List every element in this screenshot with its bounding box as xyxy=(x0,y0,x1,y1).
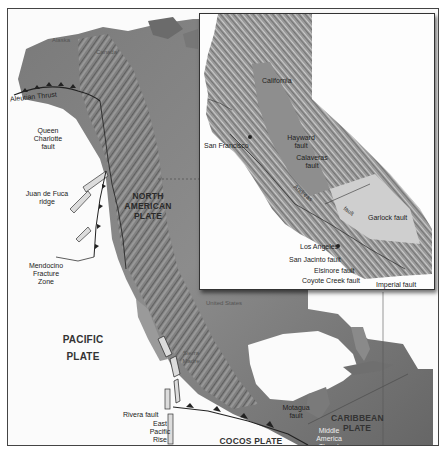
label-garlock-fault: Garlock fault xyxy=(368,214,407,222)
label-line: fault xyxy=(26,143,70,151)
label-motagua-fault: Motagua fault xyxy=(281,404,311,420)
label-line: NORTH xyxy=(118,191,178,201)
label-line: Charlotte xyxy=(26,135,70,143)
label-line: AMERICAN xyxy=(118,201,178,211)
label-line: Fracture xyxy=(24,270,68,278)
label-calaveras-fault: Calaveras fault xyxy=(294,154,330,170)
label-coyote-creek-fault: Coyote Creek fault xyxy=(302,277,360,285)
label-hayward-fault: Hayward fault xyxy=(285,134,317,150)
label-sierra-madre: Sierra Madre xyxy=(176,349,206,365)
california-inset-map: California San Francisco Hayward fault C… xyxy=(199,13,435,290)
label-united-states: United States xyxy=(206,299,242,307)
label-line: fault xyxy=(285,142,317,150)
label-line: PLATE xyxy=(118,211,178,221)
label-line: fault xyxy=(294,162,330,170)
label-line: Zone xyxy=(24,278,68,286)
label-line: Middle xyxy=(314,427,344,435)
label-california: California xyxy=(262,77,292,85)
label-line: Motagua xyxy=(281,404,311,412)
label-queen-charlotte-fault: Queen Charlotte fault xyxy=(26,127,70,151)
label-line: Mendocino xyxy=(24,262,68,270)
label-line: America xyxy=(314,435,344,443)
label-east-pacific-rise: East Pacific Rise xyxy=(148,420,172,444)
label-line: Queen xyxy=(26,127,70,135)
label-alaska: Alaska xyxy=(52,36,70,44)
label-line: PLATE xyxy=(58,348,108,365)
label-line: Sierra xyxy=(176,349,206,357)
label-line: fault xyxy=(281,412,311,420)
label-line: PACIFIC xyxy=(58,331,108,348)
label-line: Juan de Fuca xyxy=(20,190,74,198)
label-line: ridge xyxy=(20,198,74,206)
label-pacific-plate: PACIFIC PLATE xyxy=(58,331,108,365)
label-rivera-fault: Rivera fault xyxy=(123,411,158,419)
label-juan-de-fuca-ridge: Juan de Fuca ridge xyxy=(20,190,74,206)
label-canada: Canada xyxy=(96,48,117,56)
label-elsinore-fault: Elsinore fault xyxy=(314,267,354,275)
label-line: East xyxy=(148,420,172,428)
label-line: Hayward xyxy=(285,134,317,142)
label-line: CARIBBEAN xyxy=(331,413,383,423)
label-imperial-fault: Imperial fault xyxy=(376,281,416,289)
map-frame: Alaska Canada Aleutian Thrust Queen Char… xyxy=(7,8,439,446)
label-line: Madre xyxy=(176,357,206,365)
label-line: Pacific xyxy=(148,428,172,436)
label-line: Thrust xyxy=(314,443,344,446)
label-los-angeles: Los Angeles xyxy=(300,243,338,251)
label-north-american-plate: NORTH AMERICAN PLATE xyxy=(118,191,178,221)
label-mendocino-fracture-zone: Mendocino Fracture Zone xyxy=(24,262,68,286)
label-san-jacinto-fault: San Jacinto fault xyxy=(289,256,341,264)
label-line: Calaveras xyxy=(294,154,330,162)
label-middle-america-thrust: Middle America Thrust xyxy=(314,427,344,446)
label-san-francisco: San Francisco xyxy=(204,142,249,150)
label-line: Rise xyxy=(148,436,172,444)
label-cocos-plate: COCOS PLATE xyxy=(211,436,291,446)
